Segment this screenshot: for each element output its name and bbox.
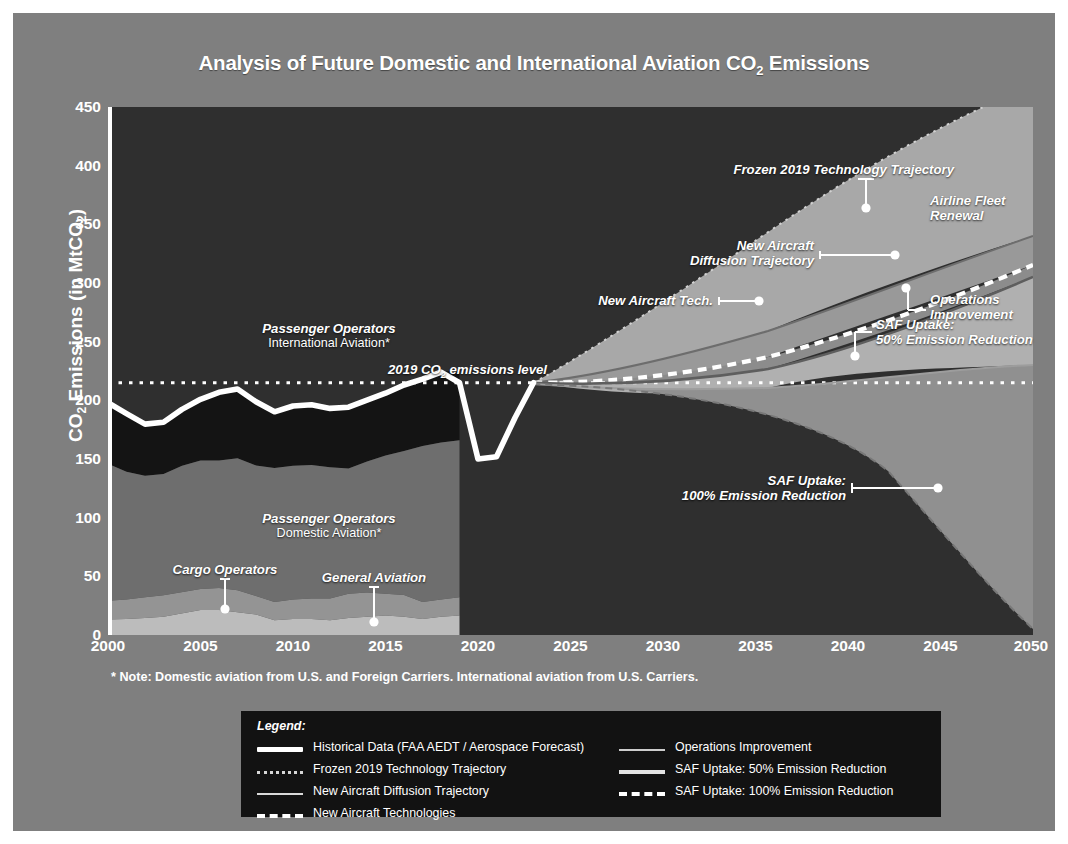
x-axis-tick-labels: 2000 2005 2010 2015 2020 2025 2030 2035 …	[108, 637, 1040, 663]
annotation-saf-100-uptake: SAF Uptake: 100% Emission Reduction	[682, 473, 846, 504]
annotation-airline-fleet-renewal-line2: Renewal	[930, 208, 1005, 223]
annotation-passenger-domestic-line1: Passenger Operators	[262, 511, 395, 526]
legend-swatch-operations-improvement-icon	[619, 749, 665, 751]
annotation-general-aviation: General Aviation	[322, 570, 426, 585]
chart-poster: Analysis of Future Domestic and Internat…	[13, 13, 1055, 831]
legend-label: New Aircraft Technologies	[313, 806, 455, 820]
x-tick-2020: 2020	[443, 637, 513, 655]
y-tick-250: 250	[55, 333, 101, 351]
x-tick-2035: 2035	[721, 637, 791, 655]
x-tick-2000: 2000	[73, 637, 143, 655]
x-tick-2015: 2015	[351, 637, 421, 655]
annotation-passenger-international-line1: Passenger Operators	[262, 321, 395, 336]
annotation-new-aircraft-diffusion: New Aircraft Diffusion Trajectory	[690, 238, 814, 269]
legend-label: Frozen 2019 Technology Trajectory	[313, 762, 506, 776]
x-tick-2025: 2025	[536, 637, 606, 655]
annotation-frozen-2019-trajectory: Frozen 2019 Technology Trajectory	[733, 162, 954, 177]
legend-swatch-new-aircraft-diffusion-icon	[257, 793, 303, 795]
x-tick-2040: 2040	[813, 637, 883, 655]
y-tick-400: 400	[55, 157, 101, 175]
y-axis-tick-labels: 450 400 350 300 250 200 150 100 50 0	[51, 107, 101, 635]
legend-label: New Aircraft Diffusion Trajectory	[313, 784, 489, 798]
x-tick-2030: 2030	[628, 637, 698, 655]
legend-swatch-saf-100-icon	[619, 792, 665, 796]
annotation-new-aircraft-diffusion-line2: Diffusion Trajectory	[690, 253, 814, 268]
page-title: Analysis of Future Domestic and Internat…	[13, 51, 1055, 78]
screenshot-page: Analysis of Future Domestic and Internat…	[0, 0, 1068, 844]
annotation-saf-50-uptake: SAF Uptake: 50% Emission Reduction	[876, 317, 1033, 348]
y-tick-100: 100	[55, 509, 101, 527]
chart-canvas	[108, 107, 1033, 635]
annotation-passenger-domestic: Passenger Operators Domestic Aviation*	[262, 511, 395, 541]
annotation-passenger-domestic-line2: Domestic Aviation*	[262, 526, 395, 541]
annotation-passenger-international: Passenger Operators International Aviati…	[262, 321, 395, 351]
legend-swatch-historical-data-icon	[257, 747, 303, 752]
x-tick-2050: 2050	[996, 637, 1066, 655]
legend-title: Legend:	[257, 719, 306, 733]
legend-swatch-new-aircraft-technologies-icon	[257, 814, 303, 818]
legend-label: SAF Uptake: 50% Emission Reduction	[675, 762, 886, 776]
annotation-airline-fleet-renewal: Airline Fleet Renewal	[930, 193, 1005, 224]
legend-swatch-saf-50-icon	[619, 770, 665, 774]
annotation-cargo-operators: Cargo Operators	[173, 562, 278, 577]
annotation-saf-100-uptake-line1: SAF Uptake:	[682, 473, 846, 488]
legend-label: SAF Uptake: 100% Emission Reduction	[675, 784, 893, 798]
annotation-new-aircraft-tech: New Aircraft Tech.	[598, 293, 713, 308]
x-tick-2005: 2005	[166, 637, 236, 655]
y-tick-200: 200	[55, 391, 101, 409]
legend-label: Operations Improvement	[675, 740, 811, 754]
x-tick-2045: 2045	[906, 637, 976, 655]
legend-label: Historical Data (FAA AEDT / Aerospace Fo…	[313, 740, 584, 754]
annotation-operations-improvement-line1: Operations	[930, 292, 1013, 307]
x-tick-2010: 2010	[258, 637, 328, 655]
page-title-suffix: Emissions	[763, 51, 869, 74]
annotation-saf-100-uptake-line2: 100% Emission Reduction	[682, 488, 846, 503]
annotation-airline-fleet-renewal-line1: Airline Fleet	[930, 193, 1005, 208]
annotation-2019-emissions-level: 2019 CO2 emissions level	[388, 362, 547, 380]
annotation-saf-50-uptake-line2: 50% Emission Reduction	[876, 332, 1033, 347]
y-tick-350: 350	[55, 215, 101, 233]
legend-swatch-frozen-2019-icon	[257, 771, 303, 774]
plot-area: Passenger Operators International Aviati…	[108, 107, 1033, 635]
y-tick-300: 300	[55, 274, 101, 292]
footnote-note: * Note: Domestic aviation from U.S. and …	[111, 670, 698, 684]
legend: Legend: Historical Data (FAA AEDT / Aero…	[241, 711, 941, 817]
annotation-new-aircraft-diffusion-line1: New Aircraft	[690, 238, 814, 253]
y-tick-50: 50	[55, 567, 101, 585]
annotation-passenger-international-line2: International Aviation*	[262, 336, 395, 351]
y-tick-150: 150	[55, 450, 101, 468]
y-tick-450: 450	[55, 98, 101, 116]
page-title-prefix: Analysis of Future Domestic and Internat…	[198, 51, 756, 74]
annotation-saf-50-uptake-line1: SAF Uptake:	[876, 317, 1033, 332]
